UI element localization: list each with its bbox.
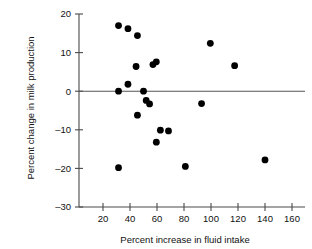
- x-tick-label: 140: [257, 213, 273, 224]
- data-point: [134, 112, 141, 119]
- y-tick-label: 0: [66, 86, 71, 97]
- data-point: [182, 163, 189, 170]
- plot-canvas: 20100–10–20–30 20406080100120140160 Perc…: [0, 0, 312, 249]
- y-tick-label: 10: [60, 47, 71, 58]
- y-tick-labels: 20100–10–20–30: [55, 8, 71, 212]
- data-point: [165, 128, 172, 135]
- data-point: [207, 40, 214, 47]
- data-points: [115, 22, 268, 171]
- data-point: [198, 100, 205, 107]
- x-tick-label: 100: [203, 213, 219, 224]
- data-point: [125, 81, 132, 88]
- tick-marks: [75, 14, 292, 211]
- x-tick-label: 40: [125, 213, 136, 224]
- data-point: [153, 58, 160, 65]
- x-axis-title: Percent increase in fluid intake: [120, 234, 249, 245]
- y-tick-label: –20: [55, 163, 71, 174]
- y-tick-label: 20: [60, 8, 71, 19]
- data-point: [133, 63, 140, 70]
- scatter-plot-figure: 20100–10–20–30 20406080100120140160 Perc…: [0, 0, 312, 249]
- x-tick-label: 120: [230, 213, 246, 224]
- data-point: [140, 88, 147, 95]
- data-point: [146, 101, 153, 108]
- x-tick-label: 80: [179, 213, 190, 224]
- data-point: [231, 62, 238, 69]
- x-tick-labels: 20406080100120140160: [98, 213, 300, 224]
- data-point: [115, 164, 122, 171]
- y-axis-title: Percent change in milk production: [25, 36, 36, 179]
- x-tick-label: 160: [284, 213, 300, 224]
- data-point: [115, 22, 122, 29]
- data-point: [157, 127, 164, 134]
- data-point: [125, 25, 132, 32]
- data-point: [134, 32, 141, 39]
- y-tick-label: –10: [55, 124, 71, 135]
- data-point: [153, 139, 160, 146]
- x-tick-label: 60: [152, 213, 163, 224]
- x-tick-label: 20: [98, 213, 109, 224]
- axes: [79, 14, 305, 207]
- data-point: [115, 88, 122, 95]
- data-point: [262, 157, 269, 164]
- y-tick-label: –30: [55, 201, 71, 212]
